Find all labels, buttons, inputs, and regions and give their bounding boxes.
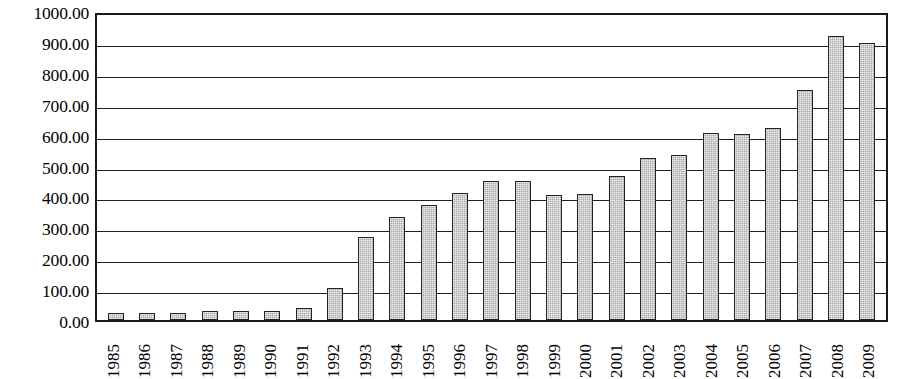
x-axis-tick-wrap: 1991 bbox=[287, 327, 318, 377]
bar bbox=[609, 176, 625, 320]
bar-slot bbox=[351, 15, 382, 320]
bar bbox=[797, 90, 813, 320]
x-axis-tick-wrap: 1998 bbox=[507, 327, 538, 377]
bar bbox=[765, 128, 781, 320]
x-axis-tick: 2009 bbox=[854, 324, 885, 379]
bar-slot bbox=[570, 15, 601, 320]
x-axis-tick: 2007 bbox=[791, 324, 822, 379]
x-axis-tick: 1991 bbox=[287, 324, 318, 379]
x-axis-tick-wrap: 1997 bbox=[476, 327, 507, 377]
bar bbox=[546, 195, 562, 320]
x-axis-tick-wrap: 1985 bbox=[98, 327, 129, 377]
bar-slot bbox=[319, 15, 350, 320]
x-axis-tick-label: 1995 bbox=[420, 336, 438, 379]
bar bbox=[202, 311, 218, 320]
x-axis-tick-label: 1993 bbox=[357, 336, 375, 379]
x-axis-tick-label: 1990 bbox=[262, 336, 280, 379]
x-axis-tick: 1985 bbox=[98, 324, 129, 379]
y-axis-tick-label: 300.00 bbox=[0, 220, 89, 238]
bar-slot bbox=[288, 15, 319, 320]
x-axis-tick-wrap: 1990 bbox=[255, 327, 286, 377]
x-axis-tick: 2005 bbox=[728, 324, 759, 379]
y-axis-tick-label: 200.00 bbox=[0, 251, 89, 269]
x-axis-tick-label: 1989 bbox=[231, 336, 249, 379]
x-axis-tick: 1998 bbox=[507, 324, 538, 379]
x-axis-tick-label: 2005 bbox=[734, 336, 752, 379]
x-axis-tick-wrap: 2006 bbox=[759, 327, 790, 377]
bar bbox=[327, 288, 343, 320]
y-axis-tick-label: 700.00 bbox=[0, 97, 89, 115]
x-axis-tick-wrap: 2009 bbox=[854, 327, 885, 377]
x-axis-tick-label: 2003 bbox=[671, 336, 689, 379]
bar bbox=[703, 133, 719, 320]
bar-slot bbox=[507, 15, 538, 320]
bar-series bbox=[97, 15, 886, 320]
x-axis-tick-wrap: 2003 bbox=[665, 327, 696, 377]
bar-slot bbox=[413, 15, 444, 320]
bar bbox=[859, 43, 875, 320]
x-axis-tick-wrap: 2005 bbox=[728, 327, 759, 377]
x-axis: 1985198619871988198919901991199219931994… bbox=[95, 324, 888, 379]
x-axis-tick: 1987 bbox=[161, 324, 192, 379]
y-axis-tick-label: 800.00 bbox=[0, 66, 89, 84]
x-axis-tick: 1990 bbox=[255, 324, 286, 379]
bar-slot bbox=[789, 15, 820, 320]
bar bbox=[828, 36, 844, 320]
bar-slot bbox=[726, 15, 757, 320]
x-axis-tick-label: 1998 bbox=[514, 336, 532, 379]
x-axis-tick-wrap: 1986 bbox=[129, 327, 160, 377]
bar-slot bbox=[852, 15, 883, 320]
x-axis-tick: 2003 bbox=[665, 324, 696, 379]
x-axis-tick-label: 1997 bbox=[483, 336, 501, 379]
bar-slot bbox=[131, 15, 162, 320]
x-axis-tick: 2001 bbox=[602, 324, 633, 379]
bar-slot bbox=[820, 15, 851, 320]
x-axis-tick: 1997 bbox=[476, 324, 507, 379]
x-axis-tick-label: 1987 bbox=[168, 336, 186, 379]
bar bbox=[640, 158, 656, 320]
x-axis-tick: 1999 bbox=[539, 324, 570, 379]
bar-slot bbox=[601, 15, 632, 320]
bar bbox=[296, 308, 312, 320]
bar bbox=[483, 181, 499, 320]
x-axis-tick: 1995 bbox=[413, 324, 444, 379]
x-axis-tick-label: 1999 bbox=[546, 336, 564, 379]
bar-slot bbox=[225, 15, 256, 320]
x-axis-tick-wrap: 1995 bbox=[413, 327, 444, 377]
x-axis-tick-wrap: 2001 bbox=[602, 327, 633, 377]
bar-slot bbox=[758, 15, 789, 320]
bar bbox=[389, 217, 405, 320]
x-axis-tick-label: 2008 bbox=[829, 336, 847, 379]
bar-slot bbox=[695, 15, 726, 320]
x-axis-tick-label: 1985 bbox=[105, 336, 123, 379]
x-axis-tick-wrap: 1994 bbox=[381, 327, 412, 377]
x-axis-tick-wrap: 2002 bbox=[633, 327, 664, 377]
x-axis-tick-label: 1986 bbox=[136, 336, 154, 379]
bar-slot bbox=[476, 15, 507, 320]
x-axis-tick-wrap: 1987 bbox=[161, 327, 192, 377]
bar bbox=[671, 155, 687, 320]
x-axis-tick: 1994 bbox=[381, 324, 412, 379]
x-axis-tick-label: 2004 bbox=[703, 336, 721, 379]
x-axis-tick: 2008 bbox=[822, 324, 853, 379]
x-axis-tick-wrap: 2000 bbox=[570, 327, 601, 377]
bar bbox=[358, 237, 374, 321]
y-axis-tick-label: 0.00 bbox=[0, 313, 89, 331]
bar bbox=[108, 313, 124, 320]
x-axis-tick-wrap: 2008 bbox=[822, 327, 853, 377]
x-axis-tick-label: 1988 bbox=[199, 336, 217, 379]
y-axis-tick-label: 600.00 bbox=[0, 128, 89, 146]
bar bbox=[515, 181, 531, 320]
x-axis-tick: 1986 bbox=[129, 324, 160, 379]
x-axis-tick-label: 1996 bbox=[451, 336, 469, 379]
x-axis-tick-wrap: 1992 bbox=[318, 327, 349, 377]
bar bbox=[170, 313, 186, 320]
y-axis: 1000.00900.00800.00700.00600.00500.00400… bbox=[0, 0, 93, 379]
bar-slot bbox=[257, 15, 288, 320]
bar bbox=[421, 205, 437, 320]
bar-slot bbox=[538, 15, 569, 320]
bar bbox=[233, 311, 249, 320]
x-axis-tick: 1988 bbox=[192, 324, 223, 379]
x-axis-tick-wrap: 1993 bbox=[350, 327, 381, 377]
x-axis-tick: 1992 bbox=[318, 324, 349, 379]
